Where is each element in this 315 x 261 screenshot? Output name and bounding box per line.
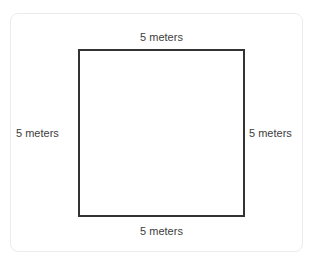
square-top-side-label: 5 meters: [78, 31, 245, 44]
square-right-side-label: 5 meters: [249, 127, 307, 140]
clipped-header-text: [0, 0, 315, 7]
square-shape: [78, 49, 245, 217]
square-bottom-side-label: 5 meters: [78, 225, 245, 238]
diagram-card: 5 meters 5 meters 5 meters 5 meters: [10, 13, 303, 252]
square-left-side-label: 5 meters: [16, 127, 74, 140]
